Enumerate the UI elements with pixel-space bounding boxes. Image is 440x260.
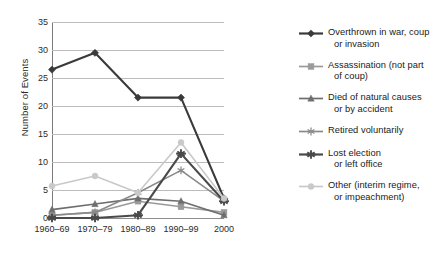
legend-item[interactable]: Overthrown in war, coupor invasion — [298, 27, 440, 50]
legend-label-line: Lost election — [328, 148, 383, 160]
data-point-circle — [135, 190, 141, 196]
legend-marker-asterisk — [298, 125, 324, 138]
data-point-diamond — [177, 94, 184, 101]
legend-label: Died of natural causesor by accident — [328, 92, 422, 115]
x-axis-tick-label: 2000 — [192, 224, 256, 234]
legend-label: Other (interim regime,or impeachment) — [328, 180, 420, 203]
legend-label-line: or left office — [334, 159, 383, 171]
y-axis-tick-label: 25 — [20, 73, 48, 83]
data-point-circle — [49, 183, 55, 189]
y-axis-tick-label: 10 — [20, 157, 48, 167]
data-point-square — [178, 204, 184, 210]
data-point-diamond — [307, 30, 314, 37]
y-axis-tick-label: 30 — [20, 45, 48, 55]
data-point-asterisk — [178, 167, 185, 175]
legend-marker-triangle — [298, 92, 324, 105]
data-point-circle — [178, 139, 184, 145]
legend-label-line: Retired voluntarily — [328, 125, 403, 137]
legend-label-line: Died of natural causes — [328, 92, 422, 104]
series-line — [49, 139, 227, 201]
legend-item[interactable]: Retired voluntarily — [298, 125, 440, 138]
legend-label: Retired voluntarily — [328, 125, 403, 137]
data-point-star — [306, 150, 316, 159]
legend-label-line: of coup) — [334, 71, 424, 83]
legend-marker-diamond — [298, 27, 324, 40]
legend-label: Assassination (not partof coup) — [328, 60, 424, 83]
legend-item[interactable]: Other (interim regime,or impeachment) — [298, 180, 440, 203]
legend-marker-star — [298, 148, 324, 161]
legend-label: Lost electionor left office — [328, 148, 383, 171]
y-axis-tick-label: 0 — [20, 213, 48, 223]
data-point-circle — [308, 184, 314, 190]
legend-item[interactable]: Died of natural causesor by accident — [298, 92, 440, 115]
legend-label-line: or impeachment) — [334, 192, 420, 204]
series-line — [48, 49, 227, 202]
legend-label-line: Assassination (not part — [328, 60, 424, 72]
legend-item[interactable]: Lost electionor left office — [298, 148, 440, 171]
legend-label-line: Overthrown in war, coup — [328, 27, 429, 39]
legend-label-line: Other (interim regime, — [328, 180, 420, 192]
legend-marker-circle — [298, 180, 324, 193]
y-axis-title: Number of Events — [19, 38, 30, 158]
data-point-circle — [92, 173, 98, 179]
legend-label-line: or invasion — [334, 39, 429, 51]
legend-marker-square — [298, 60, 324, 73]
y-axis-tick-label: 5 — [20, 185, 48, 195]
data-point-circle — [221, 195, 227, 201]
legend-item[interactable]: Assassination (not partof coup) — [298, 60, 440, 83]
legend-label-line: or by accident — [334, 104, 422, 116]
data-point-diamond — [48, 66, 55, 73]
series-overlay — [52, 22, 224, 218]
legend-label: Overthrown in war, coupor invasion — [328, 27, 429, 50]
legend: Overthrown in war, coupor invasionAssass… — [298, 27, 440, 213]
y-axis-tick-label: 35 — [20, 17, 48, 27]
y-axis-tick-label: 15 — [20, 129, 48, 139]
data-point-star — [90, 214, 100, 223]
data-point-square — [308, 63, 314, 69]
y-axis-tick-label: 20 — [20, 101, 48, 111]
chart-container: Number of Events 05101520253035 1960–691… — [0, 0, 440, 260]
